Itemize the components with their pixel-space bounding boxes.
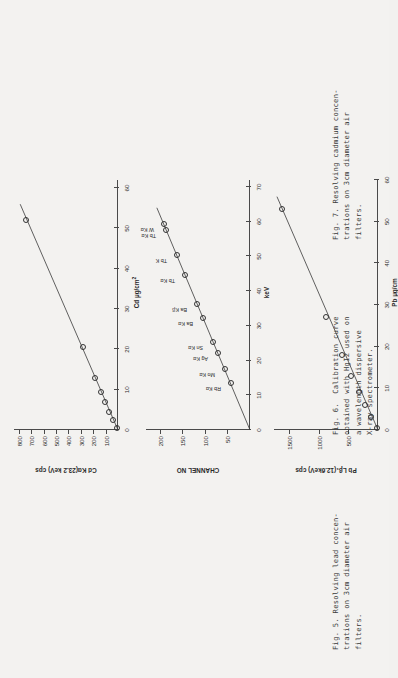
fig6-caption: Fig. 6. Calibration curve obtained with … xyxy=(330,316,376,435)
fig6-data-point xyxy=(182,273,188,279)
fig6-y-axis-label: CHANNEL NO xyxy=(177,467,220,474)
fig7-x-axis-label: Cd µg/cm2 xyxy=(131,277,140,309)
fig6-point-label: Ba Kβ xyxy=(172,307,187,313)
fig5-data-point xyxy=(323,315,329,321)
fig6-fit-line xyxy=(146,140,260,430)
fig7-y-tick-label: 500 xyxy=(53,436,60,446)
fig6-point-label: Ba Kα xyxy=(179,321,194,327)
fig7-plot-area: 1002003004005006007008000102030405060Cd … xyxy=(8,16,130,486)
fig7-data-point xyxy=(23,217,29,223)
fig7-y-tick-label: 100 xyxy=(102,436,109,446)
fig5-y-tick-label: 1000 xyxy=(315,436,322,450)
fig7-data-point xyxy=(110,417,116,423)
fig7-y-tick-label: 800 xyxy=(15,436,22,446)
figure-fig6: 50100150200010203040506070CHANNEL NOkeVR… xyxy=(140,16,262,486)
fig6-data-point xyxy=(163,227,169,233)
fig7-y-tick-label: 400 xyxy=(65,436,72,446)
fig7-data-point xyxy=(92,375,98,381)
fig6-point-label: Sn Kα xyxy=(189,345,204,351)
fig7-data-point xyxy=(114,425,120,431)
fig5-y-tick-label: 500 xyxy=(345,436,352,446)
fig7-y-axis-label: Cd Kα(23.2 keV) cps xyxy=(35,467,96,474)
fig6-data-point xyxy=(174,252,180,258)
fig5-caption: Fig. 5. Resolving lead concen- trations … xyxy=(330,513,364,650)
fig6-y-tick-label: 150 xyxy=(179,436,186,446)
fig6-data-point xyxy=(194,301,200,307)
fig7-y-tick-label: 600 xyxy=(40,436,47,446)
fig5-y-axis-label: Pb Lβ₁(12.6keV) cps xyxy=(295,467,356,474)
fig7-fit-line xyxy=(14,140,128,430)
fig6-point-label: Tb K xyxy=(155,258,166,264)
fig6-axes: 50100150200010203040506070CHANNEL NOkeVR… xyxy=(146,180,250,430)
fig6-point-label: W Kα xyxy=(140,227,153,233)
fig6-point-label: Rb Kα xyxy=(206,386,221,392)
fig7-y-tick-label: 700 xyxy=(28,436,35,446)
fig5-x-axis-label: Pb µg/cm xyxy=(391,278,398,307)
fig6-y-tick-label: 100 xyxy=(201,436,208,446)
fig7-y-tick-label: 200 xyxy=(90,436,97,446)
fig6-data-point xyxy=(222,366,228,372)
fig6-data-point xyxy=(200,315,206,321)
figure-fig7: 1002003004005006007008000102030405060Cd … xyxy=(8,16,130,486)
fig6-point-label: Tb Kα xyxy=(161,279,176,285)
fig6-data-point xyxy=(228,380,234,386)
fig6-data-point xyxy=(210,339,216,345)
fig6-plot-area: 50100150200010203040506070CHANNEL NOkeVR… xyxy=(140,16,262,486)
fig6-y-tick-label: 50 xyxy=(224,436,231,443)
fig7-y-tick-label: 300 xyxy=(77,436,84,446)
fig6-point-label: Mo Kα xyxy=(199,372,215,378)
fig6-point-label: Tb Kα xyxy=(142,233,157,239)
fig6-data-point xyxy=(215,350,221,356)
fig7-data-point xyxy=(102,399,108,405)
fig7-data-point xyxy=(80,344,86,350)
fig5-data-point xyxy=(279,206,285,212)
fig7-axes: 1002003004005006007008000102030405060Cd … xyxy=(14,180,118,430)
fig7-caption: Fig. 7. Resolving cadmium concen- tratio… xyxy=(330,89,364,240)
fig6-y-tick-label: 200 xyxy=(156,436,163,446)
fig6-point-label: Ag Kα xyxy=(193,356,208,362)
fig7-data-point xyxy=(98,389,104,395)
fig7-data-point xyxy=(106,409,112,415)
fig5-y-tick-label: 1500 xyxy=(285,436,292,450)
fig6-data-point xyxy=(161,221,167,227)
